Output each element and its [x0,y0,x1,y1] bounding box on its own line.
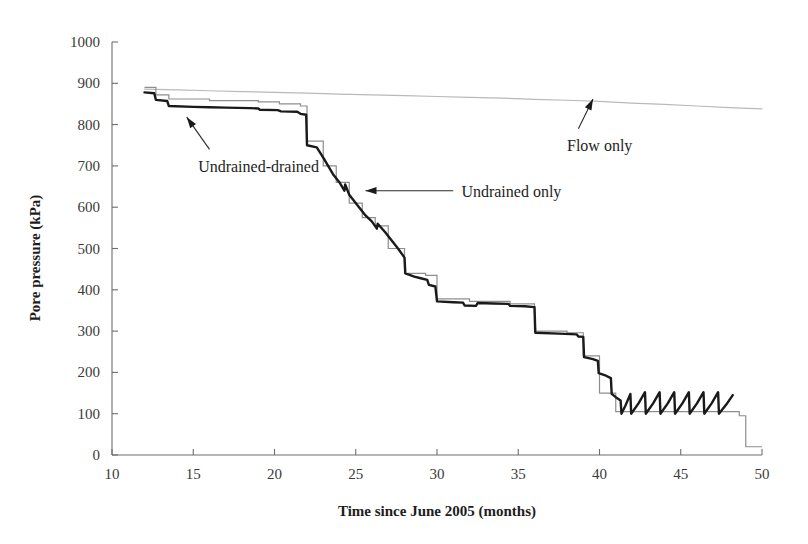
x-tick-label: 30 [430,466,445,482]
y-tick-label: 500 [78,241,101,257]
y-tick-label: 900 [78,75,101,91]
annotation-label: Flow only [567,137,632,155]
pore-pressure-chart: 01002003004005006007008009001000 1015202… [0,0,808,544]
x-tick-label: 10 [105,466,120,482]
y-axis-title: Pore pressure (kPa) [27,195,44,322]
y-tick-label: 700 [78,158,101,174]
figure-container: 01002003004005006007008009001000 1015202… [0,0,808,544]
y-tick-label: 100 [78,406,101,422]
y-tick-label: 0 [93,447,101,463]
x-tick-label: 20 [267,466,282,482]
x-tick-label: 35 [511,466,526,482]
annotation-label: Undrained only [461,183,561,201]
y-tick-label: 300 [78,323,101,339]
x-tick-label: 45 [673,466,688,482]
y-tick-label: 200 [78,364,101,380]
x-tick-label: 50 [755,466,770,482]
x-tick-label: 25 [348,466,363,482]
y-tick-label: 400 [78,282,101,298]
y-tick-label: 1000 [70,34,100,50]
x-tick-label: 15 [186,466,201,482]
x-axis-title: Time since June 2005 (months) [338,503,536,520]
y-tick-label: 600 [78,199,101,215]
y-tick-label: 800 [78,117,101,133]
x-tick-label: 40 [592,466,607,482]
annotation-label: Undrained-drained [198,158,319,175]
